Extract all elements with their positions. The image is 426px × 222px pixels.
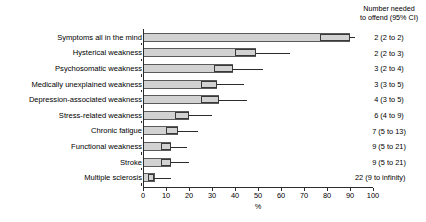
category-label: Stress-related weakness (0, 111, 142, 120)
confidence-interval-box (161, 143, 170, 150)
confidence-interval-box (148, 174, 155, 181)
x-axis-tick-label: 40 (224, 192, 246, 200)
y-axis-tick (141, 137, 142, 140)
number-needed-to-offend-value: 3 (2 to 4) (352, 64, 426, 73)
number-needed-to-offend-value: 4 (3 to 5) (352, 95, 426, 104)
number-needed-to-offend-value: 22 (9 to infinity) (355, 173, 426, 182)
y-axis-tick (141, 59, 142, 62)
y-axis-tick (141, 121, 142, 124)
category-label: Stroke (0, 158, 142, 167)
number-needed-to-offend-value: 9 (5 to 21) (352, 142, 426, 151)
confidence-interval-box (214, 65, 232, 72)
number-needed-to-offend-value: 2 (2 to 3) (352, 49, 426, 58)
category-label: Chronic fatigue (0, 126, 142, 135)
x-axis-tick-label: 30 (201, 192, 223, 200)
x-axis-tick-label: 90 (339, 192, 361, 200)
confidence-interval-box (166, 127, 178, 134)
y-axis-tick (141, 90, 142, 93)
offence-bar-chart: Number needed to offend (95% CI) 0102030… (0, 0, 426, 222)
x-axis-tick-label: 20 (178, 192, 200, 200)
category-label: Depression-associated weakness (0, 95, 142, 104)
x-axis-tick-label: 0 (132, 192, 154, 200)
y-axis-tick (141, 152, 142, 155)
y-axis-tick (141, 74, 142, 77)
confidence-interval-box (161, 159, 170, 166)
x-axis-tick-label: 10 (155, 192, 177, 200)
number-needed-to-offend-value: 7 (5 to 13) (352, 127, 426, 136)
y-axis-tick (141, 168, 142, 171)
category-label: Symptoms all in the mind (0, 33, 142, 42)
confidence-interval-box (320, 34, 350, 41)
x-axis-title: % (238, 202, 278, 211)
confidence-interval-box (235, 49, 256, 56)
number-needed-to-offend-value: 3 (3 to 5) (352, 80, 426, 89)
confidence-interval-box (201, 81, 217, 88)
number-needed-to-offend-value: 9 (5 to 21) (352, 158, 426, 167)
x-axis-tick-label: 80 (316, 192, 338, 200)
category-label: Hysterical weakness (0, 48, 142, 57)
bar (143, 33, 350, 42)
x-axis-tick-label: 100 (362, 192, 384, 200)
y-axis-tick (141, 183, 142, 186)
y-axis-line (143, 29, 144, 188)
x-axis-tick-label: 70 (293, 192, 315, 200)
y-axis-tick (141, 105, 142, 108)
number-needed-to-offend-value: 6 (4 to 9) (352, 111, 426, 120)
category-label: Multiple sclerosis (0, 173, 142, 182)
y-axis-tick (141, 43, 142, 46)
category-label: Medically unexplained weakness (0, 80, 142, 89)
category-label: Functional weakness (0, 142, 142, 151)
number-needed-to-offend-value: 2 (2 to 2) (352, 33, 426, 42)
category-label: Psychosomatic weakness (0, 64, 142, 73)
x-axis-tick-label: 60 (270, 192, 292, 200)
x-axis-tick-label: 50 (247, 192, 269, 200)
confidence-interval-box (201, 96, 219, 103)
confidence-interval-box (175, 112, 189, 119)
